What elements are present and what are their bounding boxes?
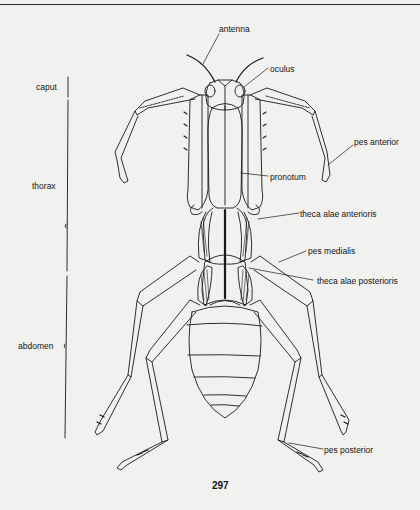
pronotum-shape xyxy=(208,104,242,209)
label-abdomen: abdomen xyxy=(18,341,53,351)
label-pes-posterior: pes posterior xyxy=(324,445,373,455)
label-pronotum: pronotum xyxy=(270,172,306,182)
leader-oculus xyxy=(244,68,268,87)
label-oculus: oculus xyxy=(270,64,295,74)
label-pes-medialis: pes medialis xyxy=(308,246,355,256)
hind-legs xyxy=(117,300,323,472)
leader-pronotum xyxy=(241,173,268,176)
abdomen-shape xyxy=(187,306,262,418)
label-thorax: thorax xyxy=(32,181,56,191)
head xyxy=(205,80,245,110)
page-number: 297 xyxy=(212,480,229,491)
leader-pes-medialis xyxy=(279,251,306,262)
label-antenna: antenna xyxy=(219,24,250,34)
label-pes-anterior: pes anterior xyxy=(354,137,399,147)
insect-diagram xyxy=(0,0,420,510)
leader-antenna xyxy=(203,34,219,64)
label-theca-alae-anterioris: theca alae anterioris xyxy=(300,209,377,219)
metathorax xyxy=(198,255,253,306)
leader-theca-alae-posterioris xyxy=(249,268,313,280)
mesothorax xyxy=(198,208,251,264)
leader-pes-anterior xyxy=(328,145,353,165)
leader-theca-alae-anterioris xyxy=(258,213,299,219)
label-theca-alae-posterioris: theca alae posterioris xyxy=(317,276,398,286)
front-legs xyxy=(115,88,330,215)
antennae xyxy=(187,55,263,82)
middle-legs xyxy=(95,256,349,435)
region-axis xyxy=(64,77,68,438)
label-caput: caput xyxy=(36,82,57,92)
